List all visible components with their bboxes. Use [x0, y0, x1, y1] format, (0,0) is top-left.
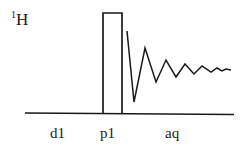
time-baseline — [25, 113, 234, 115]
nucleus-label: 1H — [11, 9, 28, 29]
period-label-aq: aq — [165, 125, 180, 141]
period-label-d1: d1 — [50, 125, 65, 141]
fid-signal-aq — [127, 31, 231, 102]
nucleus-symbol: H — [16, 10, 28, 29]
pulse-sequence-diagram: 1H d1 p1 aq — [0, 0, 248, 154]
rf-pulse-p1 — [103, 13, 122, 114]
period-label-p1: p1 — [100, 125, 115, 141]
